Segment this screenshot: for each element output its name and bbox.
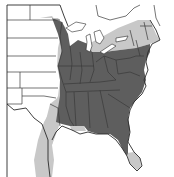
range-map	[0, 0, 174, 177]
